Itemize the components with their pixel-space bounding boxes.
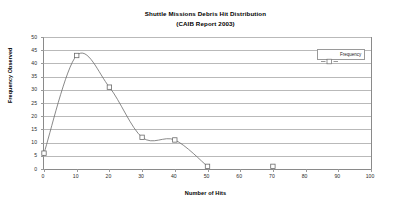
y-tick-label: 50	[11, 35, 37, 40]
y-tick-label: 15	[11, 127, 37, 132]
y-tick-label: 25	[11, 101, 37, 106]
x-axis-title: Number of Hits	[0, 190, 411, 196]
chart-subtitle: (CAIB Report 2003)	[0, 19, 411, 29]
x-tick-mark	[208, 169, 209, 172]
data-point-marker	[107, 85, 111, 89]
legend-marker-icon	[321, 51, 338, 58]
chart-container: Shuttle Missions Debris Hit Distribution…	[0, 0, 411, 205]
x-tick-mark	[44, 169, 45, 172]
data-point-marker	[75, 53, 79, 57]
x-tick-mark	[371, 169, 372, 172]
x-tick-label: 10	[64, 174, 88, 179]
y-tick-label: 0	[11, 167, 37, 172]
x-tick-mark	[306, 169, 307, 172]
x-tick-mark	[142, 169, 143, 172]
frequency-markers	[42, 53, 275, 168]
x-tick-label: 60	[227, 174, 251, 179]
legend-label: Frequency	[340, 52, 361, 57]
data-point-marker	[173, 138, 177, 142]
x-tick-label: 70	[260, 174, 284, 179]
data-point-marker	[271, 164, 275, 168]
x-tick-mark	[338, 169, 339, 172]
x-tick-label: 40	[162, 174, 186, 179]
plot-right-border	[371, 37, 372, 169]
chart-title-block: Shuttle Missions Debris Hit Distribution…	[0, 9, 411, 29]
x-tick-label: 50	[195, 174, 219, 179]
data-point-marker	[205, 164, 209, 168]
x-tick-mark	[273, 169, 274, 172]
x-tick-label: 20	[96, 174, 120, 179]
plot-area: Frequency	[43, 37, 371, 170]
page-title: Shuttle Missions Debris Hit Distribution	[0, 9, 411, 19]
data-point-marker	[140, 135, 144, 139]
x-tick-mark	[175, 169, 176, 172]
x-tick-label: 100	[358, 174, 382, 179]
frequency-line	[44, 53, 208, 166]
y-tick-label: 10	[11, 140, 37, 145]
x-tick-mark	[77, 169, 78, 172]
x-tick-mark	[109, 169, 110, 172]
x-tick-label: 0	[31, 174, 55, 179]
y-tick-label: 20	[11, 114, 37, 119]
y-tick-label: 35	[11, 74, 37, 79]
y-tick-label: 30	[11, 87, 37, 92]
x-tick-label: 30	[129, 174, 153, 179]
x-tick-label: 90	[325, 174, 349, 179]
data-point-marker	[42, 151, 46, 155]
y-tick-label: 45	[11, 48, 37, 53]
y-tick-label: 40	[11, 61, 37, 66]
legend: Frequency	[317, 49, 365, 60]
x-tick-mark	[240, 169, 241, 172]
x-tick-label: 80	[293, 174, 317, 179]
y-tick-label: 5	[11, 153, 37, 158]
